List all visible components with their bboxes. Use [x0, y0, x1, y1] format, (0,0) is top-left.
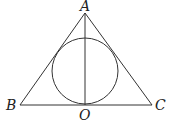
side-ab [20, 13, 85, 105]
triangle-diagram: A B C O [0, 0, 169, 120]
side-ac [85, 13, 152, 105]
label-a: A [78, 0, 90, 14]
label-c: C [155, 97, 166, 113]
label-b: B [5, 97, 16, 113]
label-o: O [79, 107, 91, 120]
